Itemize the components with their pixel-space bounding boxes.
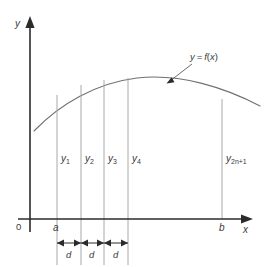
dimension-arrow-left-d2	[81, 240, 88, 247]
function-curve	[34, 77, 260, 131]
ordinate-label-y3: y3	[108, 154, 117, 164]
curve-label-close-paren: )	[215, 51, 218, 62]
x-axis-label: x	[243, 225, 248, 235]
dimension-arrow-right-d1	[74, 240, 81, 247]
dimension-arrow-left-d3	[104, 240, 111, 247]
ordinate-label-y4: y4	[132, 154, 141, 164]
dimension-group-d3	[104, 240, 128, 247]
lower-limit-label: a	[53, 223, 59, 233]
origin-label: 0	[16, 222, 21, 232]
dimension-arrow-right-d3	[121, 240, 128, 247]
upper-limit-label: b	[219, 223, 225, 233]
spacing-label-d1: d	[66, 250, 71, 260]
spacing-label-d3: d	[113, 250, 118, 260]
curve-label-y: y	[190, 51, 195, 62]
dimension-arrow-right-d2	[97, 240, 104, 247]
y-axis-label: y	[15, 19, 20, 29]
curve-label: y = f(x)	[190, 52, 218, 62]
curve-label-leader-line	[170, 64, 192, 81]
ordinate-label-y3-sub: 3	[113, 158, 117, 165]
curve-label-equals: =	[197, 51, 203, 62]
dimension-group-d2	[81, 240, 104, 247]
ordinate-label-y2-sub: 2	[90, 158, 94, 165]
ordinate-label-y4-sub: 4	[137, 158, 141, 165]
ordinate-label-y2n1: y2n+1	[226, 154, 247, 164]
ordinate-label-y2: y2	[85, 154, 94, 164]
ordinate-label-y1-sub: 1	[66, 158, 70, 165]
dimension-group-d1	[57, 240, 81, 247]
spacing-label-d2: d	[89, 250, 94, 260]
x-axis-arrow-icon	[241, 214, 253, 223]
figure-container: y x 0 a b y = f(x) y1 y2 y3 y4 y2n+1 d d…	[0, 0, 264, 267]
ordinate-label-y1: y1	[61, 154, 70, 164]
dimension-arrow-left-d1	[57, 240, 64, 247]
y-axis-arrow-icon	[25, 16, 34, 28]
ordinate-label-y2n1-sub: 2n+1	[231, 158, 247, 165]
